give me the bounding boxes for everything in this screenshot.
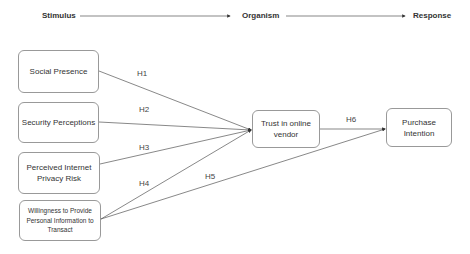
path-h2	[99, 122, 251, 130]
path-h1	[99, 71, 251, 130]
label-h2: H2	[139, 105, 149, 114]
node-label: Security Perceptions	[22, 117, 95, 128]
label-h5: H5	[205, 172, 215, 181]
path-h4	[101, 130, 251, 219]
label-h4: H4	[139, 179, 149, 188]
stage-response: Response	[413, 11, 451, 20]
node-purchase-intention: Purchase Intention	[386, 108, 452, 147]
path-h3	[100, 130, 251, 164]
node-label: Trust in online vendor	[255, 118, 317, 140]
node-willingness: Willingness to Provide Personal Informat…	[19, 200, 101, 241]
node-label: Perceived Internet Privacy Risk	[21, 162, 97, 184]
stage-organism: Organism	[242, 11, 279, 20]
node-label: Willingness to Provide Personal Informat…	[22, 206, 98, 235]
node-social-presence: Social Presence	[18, 50, 99, 93]
stage-stimulus: Stimulus	[42, 11, 76, 20]
node-security-perceptions: Security Perceptions	[18, 102, 99, 143]
node-privacy-risk: Perceived Internet Privacy Risk	[18, 152, 100, 194]
node-label: Purchase Intention	[389, 117, 449, 139]
label-h6: H6	[346, 115, 356, 124]
node-label: Social Presence	[30, 66, 88, 77]
node-trust: Trust in online vendor	[252, 110, 320, 148]
label-h1: H1	[137, 69, 147, 78]
label-h3: H3	[139, 143, 149, 152]
